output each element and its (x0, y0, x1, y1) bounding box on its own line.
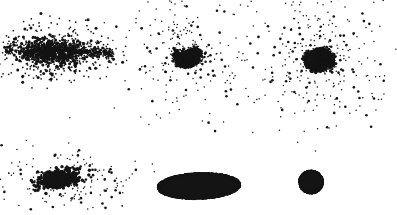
panel-region-irregular (8, 12, 120, 95)
galaxy-morphology-figure: Galaxy Morphology Sequence Irregular Bar… (0, 0, 397, 215)
panel-region-inclined-spiral (12, 155, 122, 208)
panel-region-elliptical-e0 (299, 170, 324, 195)
panel-region-grand-spiral (262, 8, 392, 122)
panel-region-elliptical-e7 (158, 172, 242, 201)
panel-region-s-spiral (145, 12, 245, 110)
